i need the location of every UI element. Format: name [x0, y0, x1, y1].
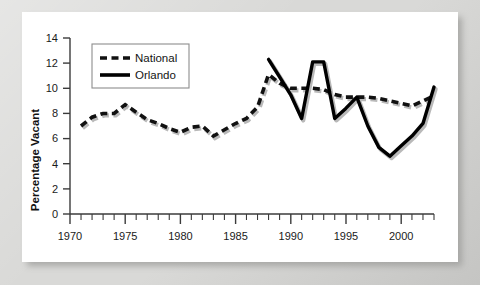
legend-label-orlando: Orlando: [135, 69, 176, 81]
y-tick-label: 8: [52, 107, 58, 119]
y-axis-label: Percentage Vacant: [29, 109, 41, 211]
y-tick-label: 12: [46, 57, 58, 69]
y-tick-label: 4: [52, 158, 58, 170]
legend-box: [92, 44, 189, 88]
x-axis-ticks: 1970 1975 1980 1985 1990 1995 2000: [58, 214, 414, 242]
x-tick-label: 1990: [279, 230, 303, 242]
screenshot-root: Percentage Vacant 0 2 4 6 8 10: [0, 0, 480, 285]
y-tick-label: 0: [52, 208, 58, 220]
series-orlando-shadow: [270, 61, 435, 158]
line-chart: Percentage Vacant 0 2 4 6 8 10: [22, 12, 458, 262]
x-axis-minor-ticks: [81, 214, 434, 220]
y-axis-ticks: 0 2 4 6 8 10 12 14: [46, 32, 70, 220]
y-tick-label: 14: [46, 32, 58, 44]
y-tick-label: 6: [52, 132, 58, 144]
x-tick-label: 1975: [113, 230, 137, 242]
x-tick-label: 2000: [389, 230, 413, 242]
x-tick-label: 1980: [168, 230, 192, 242]
chart-legend: National Orlando: [92, 44, 189, 88]
x-tick-label: 1970: [58, 230, 82, 242]
y-tick-label: 2: [52, 183, 58, 195]
legend-label-national: National: [135, 52, 177, 64]
chart-card: Percentage Vacant 0 2 4 6 8 10: [22, 12, 458, 262]
y-tick-label: 10: [46, 82, 58, 94]
x-tick-label: 1995: [334, 230, 358, 242]
x-tick-label: 1985: [223, 230, 247, 242]
